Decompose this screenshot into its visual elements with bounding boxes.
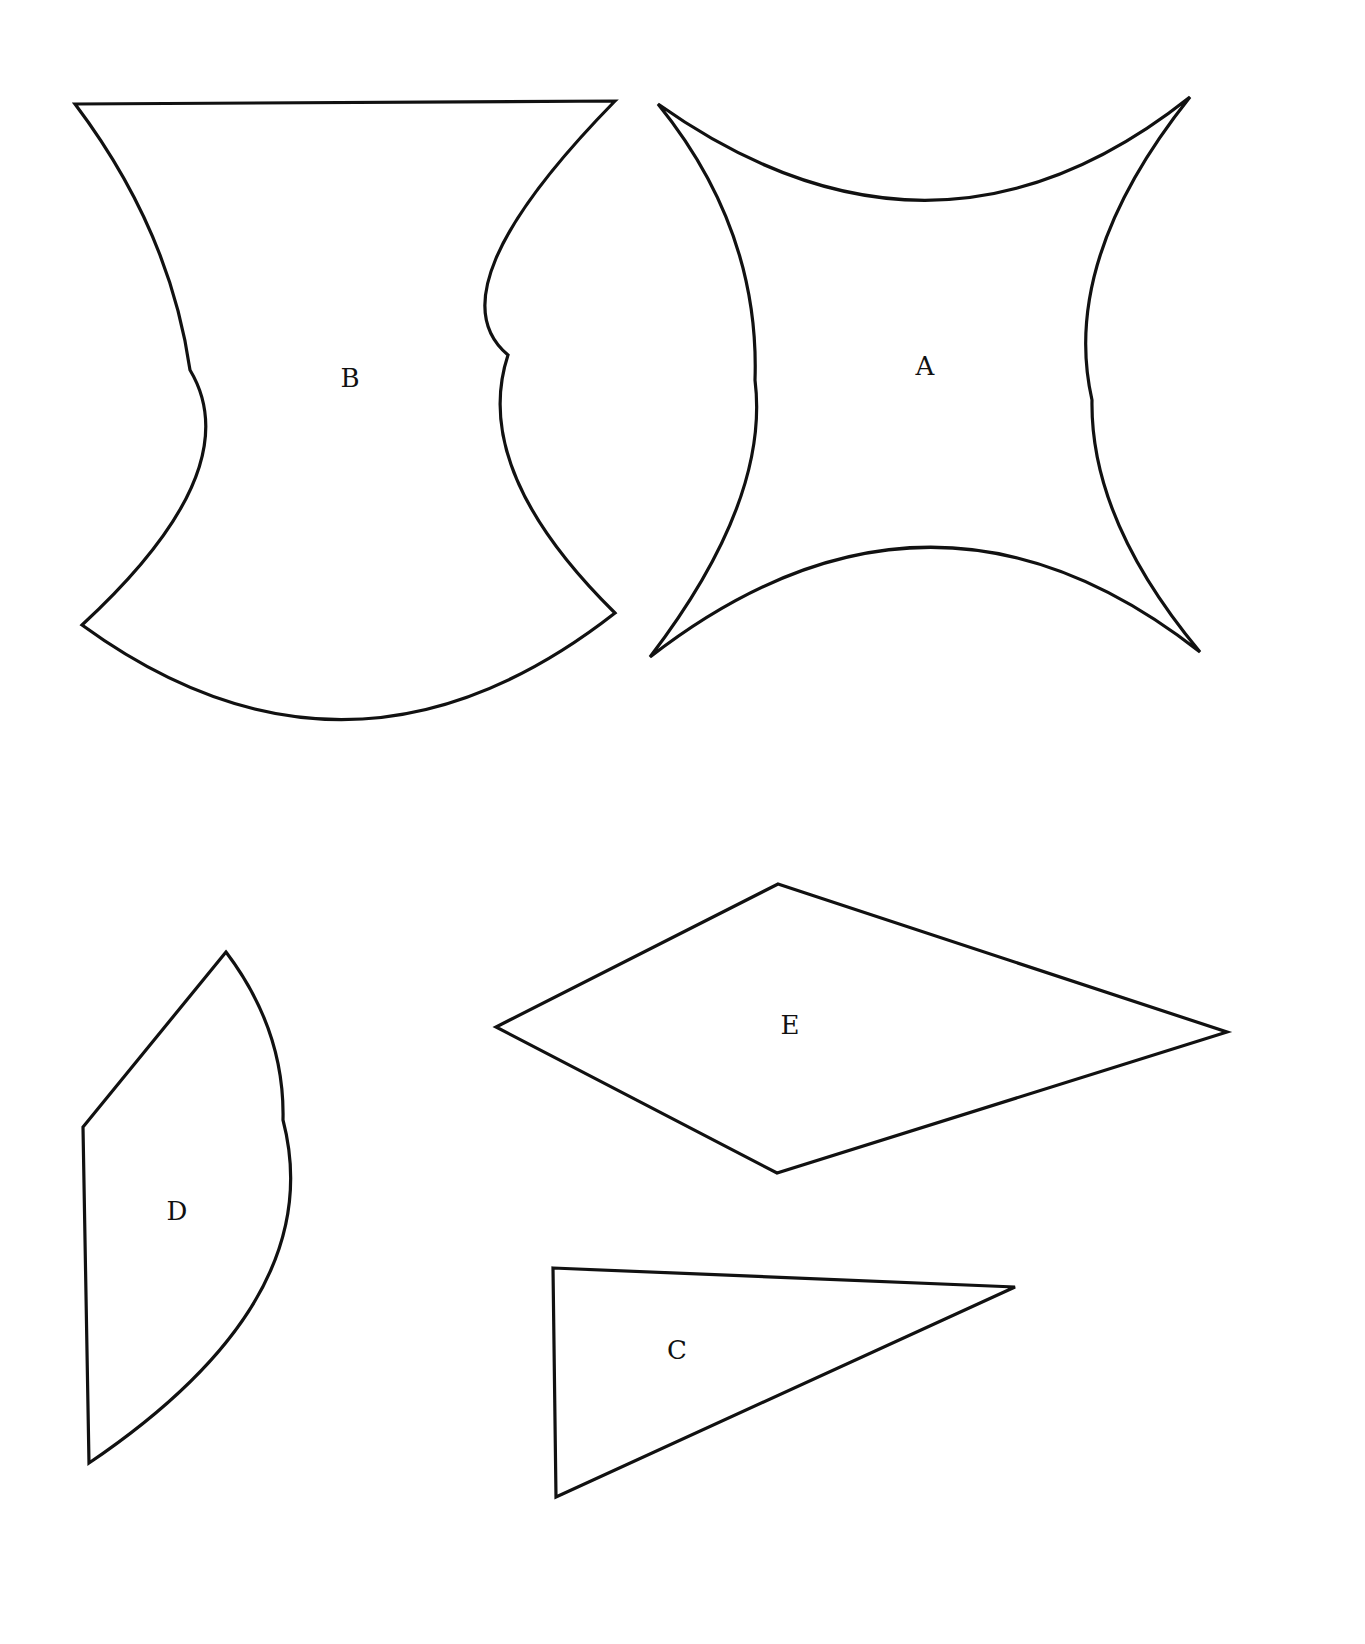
shape-c-label: C [667,1335,687,1365]
shape-d-label: D [167,1196,188,1226]
shape-a: A [650,97,1200,657]
diagram-canvas: B A D E C [0,0,1365,1644]
shape-a-label: A [915,351,936,381]
shape-e: E [496,884,1227,1173]
shape-c-outline [553,1268,1015,1497]
shape-e-label: E [781,1010,800,1040]
shape-b-label: B [340,363,359,393]
shape-b-outline [75,101,615,720]
shape-e-outline [496,884,1227,1173]
shape-b: B [75,101,615,720]
shape-c: C [553,1268,1015,1497]
shape-d: D [83,952,291,1463]
